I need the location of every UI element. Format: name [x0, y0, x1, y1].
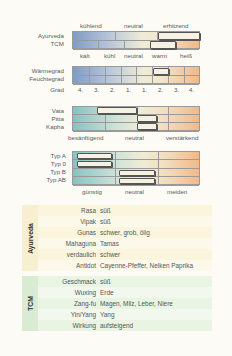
- label-grad: Grad: [4, 86, 64, 93]
- row-kapha: [73, 123, 199, 132]
- label-neutral-2: neutral: [124, 52, 143, 59]
- row-value: aufsteigend: [100, 322, 133, 329]
- table-row: verdaulichschwer: [38, 249, 212, 260]
- table-row: Zang-fuMagen, Milz, Leber, Niere: [38, 298, 212, 309]
- blood-type-chart: [72, 151, 200, 185]
- row-label-vata: Vata: [4, 107, 64, 114]
- row-label-kapha: Kapha: [4, 123, 64, 130]
- row-label-ayurveda: Ayurveda: [4, 32, 64, 39]
- row-label-typ-ab: Typ AB: [6, 176, 66, 183]
- row-value: Erde: [100, 289, 114, 296]
- row-key: Antidot: [38, 262, 100, 269]
- typ-a-value-bar: [77, 153, 112, 159]
- tick-3-warm: 3.: [174, 86, 179, 93]
- row-key: Rasa: [38, 207, 100, 214]
- properties-table: Ayurveda Rasasüß Vipaksüß Gunasschwer, g…: [22, 205, 212, 331]
- label-guenstig: günstig: [82, 188, 102, 195]
- vata-value-bar: [97, 107, 137, 114]
- row-key: Wuxing: [38, 289, 100, 296]
- row-value: schwer: [100, 251, 120, 258]
- label-besaenftigend: besänftigend: [68, 134, 103, 141]
- row-value: süß: [100, 207, 111, 214]
- tick-1-cold: 1.: [126, 86, 131, 93]
- ayurveda-value-bar: [158, 32, 200, 40]
- table-row: AntidotCayenne-Pfeffer, Nelken Paprika: [38, 260, 212, 271]
- row-label-feuchtegrad: Feuchtegrad: [4, 75, 64, 82]
- tick-2-cold: 2.: [110, 86, 115, 93]
- label-erhitzend: erhitzend: [163, 22, 188, 29]
- table-row: Vipaksüß: [38, 216, 212, 227]
- tcm-side-label: TCM: [22, 276, 38, 331]
- row-value: Cayenne-Pfeffer, Nelken Paprika: [100, 262, 193, 269]
- label-kalt: kalt: [80, 52, 90, 59]
- row-value: süß: [100, 218, 111, 225]
- tick-2-warm: 2.: [158, 86, 163, 93]
- label-neutral: neutral: [124, 22, 143, 29]
- ayurveda-side-label: Ayurveda: [22, 205, 38, 271]
- table-row: Geschmacksüß: [38, 276, 212, 287]
- ayurveda-title: Ayurveda: [27, 223, 34, 254]
- tick-4-warm: 4.: [189, 86, 194, 93]
- pitta-value-bar: [137, 115, 157, 122]
- tcm-title: TCM: [26, 296, 33, 311]
- label-neutral-3: neutral: [125, 134, 144, 141]
- row-pitta: [73, 115, 199, 123]
- typ-ab-value-bar: [119, 178, 155, 184]
- table-row: Wirkungaufsteigend: [38, 320, 212, 331]
- tcm-value-bar: [150, 41, 176, 49]
- label-meiden: meiden: [167, 188, 187, 195]
- row-key: Wirkung: [38, 322, 100, 329]
- label-verstaerkend: verstärkend: [166, 134, 198, 141]
- typ-b-value-bar: [119, 170, 155, 176]
- row-label-pitta: Pitta: [4, 115, 64, 122]
- row-key: Geschmack: [38, 278, 100, 285]
- dosha-chart: [72, 106, 200, 131]
- table-row: MahagunaTamas: [38, 238, 212, 249]
- row-value: schwer, grob, ölig: [100, 229, 150, 236]
- row-value: Yang: [100, 311, 114, 318]
- label-neutral-4: neutral: [125, 188, 144, 195]
- row-value: Tamas: [100, 240, 119, 247]
- table-row: Yin/YangYang: [38, 309, 212, 320]
- ayurveda-section: Ayurveda Rasasüß Vipaksüß Gunasschwer, g…: [22, 205, 212, 271]
- row-label-tcm: TCM: [4, 40, 64, 47]
- row-key: Mahaguna: [38, 240, 100, 247]
- row-key: Vipak: [38, 218, 100, 225]
- kapha-value-bar: [137, 123, 157, 130]
- waermegrad-value-bar: [153, 68, 169, 75]
- row-key: verdaulich: [38, 251, 100, 258]
- row-value: süß: [100, 278, 111, 285]
- row-label-typ-b: Typ B: [6, 168, 66, 175]
- label-warm: warm: [152, 52, 167, 59]
- table-row: WuxingErde: [38, 287, 212, 298]
- thermal-chart: [72, 31, 200, 49]
- tick-4-cold: 4.: [78, 86, 83, 93]
- tick-3-cold: 3.: [94, 86, 99, 93]
- row-label-typ-0: Typ 0: [6, 160, 66, 167]
- typ-0-value-bar: [77, 161, 112, 167]
- row-key: Zang-fu: [38, 300, 100, 307]
- table-row: Gunasschwer, grob, ölig: [38, 227, 212, 238]
- label-kuehl: kühl: [104, 52, 115, 59]
- row-label-typ-a: Typ A: [6, 152, 66, 159]
- row-label-waermegrad: Wärmegrad: [4, 67, 64, 74]
- tick-1-warm: 1.: [142, 86, 147, 93]
- label-heiss: heiß: [180, 52, 192, 59]
- label-kuehlend: kühlend: [80, 22, 102, 29]
- row-key: Yin/Yang: [38, 311, 100, 318]
- tcm-section: TCM Geschmacksüß WuxingErde Zang-fuMagen…: [22, 276, 212, 331]
- table-row: Rasasüß: [38, 205, 212, 216]
- row-value: Magen, Milz, Leber, Niere: [100, 300, 173, 307]
- row-key: Gunas: [38, 229, 100, 236]
- row-tcm: [73, 41, 199, 50]
- grad-chart: [72, 66, 200, 84]
